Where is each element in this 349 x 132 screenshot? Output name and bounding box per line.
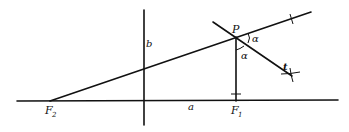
label-t: t: [283, 61, 288, 72]
label-f1-sub: 1: [238, 111, 242, 119]
ellipse-diagram: P α α t b a F 2 F 1: [0, 0, 349, 132]
label-p: P: [231, 23, 240, 36]
label-alpha-lower: α: [241, 50, 248, 61]
label-alpha-upper: α: [252, 33, 259, 44]
line-t: [213, 22, 292, 76]
label-f2-sub: 2: [51, 111, 57, 119]
label-a: a: [188, 101, 194, 112]
label-b: b: [146, 38, 152, 49]
angle-arc-upper: [248, 33, 250, 43]
focal-ray-f2-p: [50, 12, 311, 101]
x-axis: [17, 100, 338, 101]
